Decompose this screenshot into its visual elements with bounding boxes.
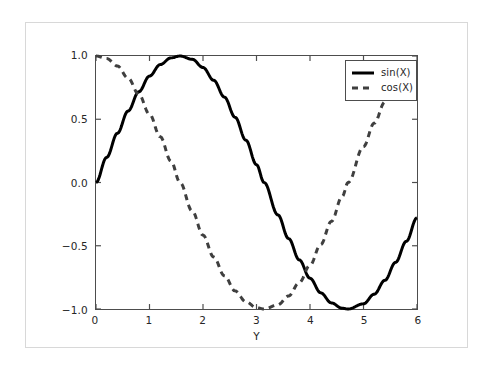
y-tick-label: −1.0 (62, 304, 88, 316)
legend-item-sin: sin(X) (351, 65, 411, 80)
y-tick-label: 0.0 (71, 177, 88, 189)
x-tick-label: 5 (361, 314, 368, 326)
y-tick-label: 1.0 (71, 49, 88, 61)
legend-item-cos: cos(X) (351, 80, 411, 95)
x-tick-label: 2 (199, 314, 206, 326)
legend-key-dashed-line-icon (351, 82, 375, 94)
x-tick-label: 0 (92, 314, 99, 326)
legend-key-solid-line-icon (351, 67, 375, 79)
legend-label-sin: sin(X) (381, 67, 411, 78)
chart-figure: −1.0−0.50.00.51.0 0123456 Y sin(X) (0, 0, 500, 367)
chart-legend: sin(X) cos(X) (345, 60, 417, 101)
x-tick-label: 1 (145, 314, 152, 326)
y-axis-tick-labels: −1.0−0.50.00.51.0 (52, 55, 88, 310)
y-tick-label: −0.5 (62, 240, 88, 252)
y-tick-label: 0.5 (71, 113, 88, 125)
x-tick-label: 6 (415, 314, 422, 326)
x-axis-label: Y (95, 330, 418, 342)
legend-label-cos: cos(X) (381, 82, 413, 93)
x-axis-tick-labels: 0123456 (95, 314, 418, 330)
x-tick-label: 3 (253, 314, 260, 326)
x-tick-label: 4 (307, 314, 314, 326)
